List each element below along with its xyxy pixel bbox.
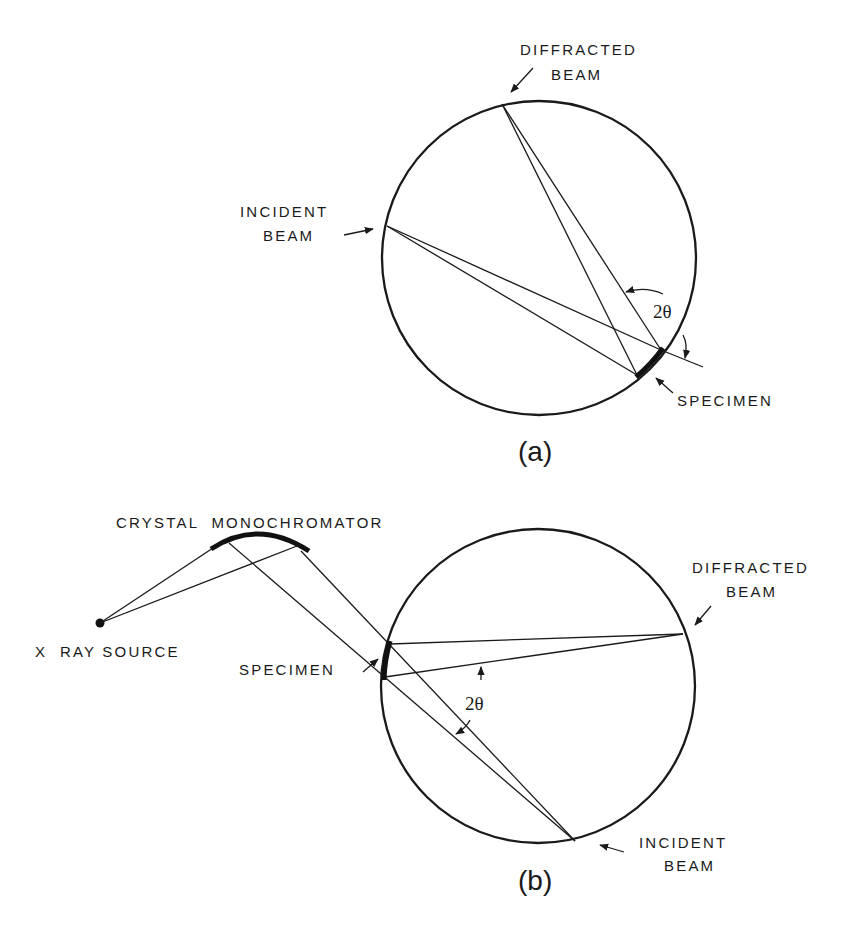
panel-b: 2θ CRYSTAL MONOCHROMATOR X RAY SOURCE SP… — [35, 514, 809, 896]
crystal-monochromator — [211, 534, 309, 551]
specimen-pointer-a — [656, 378, 673, 393]
angle-label-a: 2θ — [653, 301, 672, 322]
incident-pointer-a — [344, 229, 373, 235]
incident-beam-label-b-line2: BEAM — [664, 857, 715, 874]
monochromator-label: CRYSTAL MONOCHROMATOR — [116, 514, 384, 531]
angle-arc-lower-a — [683, 335, 686, 358]
diffracted-beam-label-b-line1: DIFFRACTED — [692, 559, 809, 576]
panel-caption-a: (a) — [518, 436, 552, 467]
specimen-label-b: SPECIMEN — [239, 661, 335, 678]
xray-source-label: X RAY SOURCE — [35, 643, 180, 660]
specimen-a — [636, 348, 663, 377]
diffracted-beam-label-b-line2: BEAM — [726, 583, 777, 600]
incident-beam-rays-b — [229, 543, 575, 841]
diffracted-beam-rays-a — [502, 104, 661, 375]
diffracted-beam-label-a-line1: DIFFRACTED — [520, 41, 637, 58]
diffracted-pointer-a — [511, 68, 533, 92]
incident-pointer-b — [600, 845, 624, 852]
panel-caption-b: (b) — [518, 865, 552, 896]
diffraction-geometry-figure: 2θ DIFFRACTED BEAM INCIDENT BEAM SPECIME… — [0, 0, 862, 936]
incident-beam-label-b-line1: INCIDENT — [639, 834, 727, 851]
panel-a: 2θ DIFFRACTED BEAM INCIDENT BEAM SPECIME… — [240, 41, 773, 467]
angle-arc-upper-a — [626, 289, 663, 294]
diffracted-beam-rays-b — [385, 634, 683, 677]
incident-beam-label-a-line2: BEAM — [263, 227, 314, 244]
source-rays — [100, 546, 297, 623]
incident-beam-label-a-line1: INCIDENT — [240, 203, 328, 220]
specimen-label-a: SPECIMEN — [677, 392, 773, 409]
diffracted-pointer-b — [695, 606, 711, 625]
diffracted-beam-label-a-line2: BEAM — [551, 66, 602, 83]
angle-label-b: 2θ — [465, 693, 484, 714]
